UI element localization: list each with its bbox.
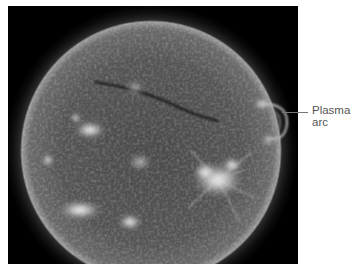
sun-figure: Plasma arc [0, 0, 358, 271]
label-line-2: arc [312, 116, 350, 128]
sun-photo [8, 6, 298, 264]
callout-line [282, 112, 308, 113]
sun-image [8, 6, 298, 264]
plasma-arc-label: Plasma arc [312, 104, 350, 128]
label-line-1: Plasma [312, 104, 350, 116]
